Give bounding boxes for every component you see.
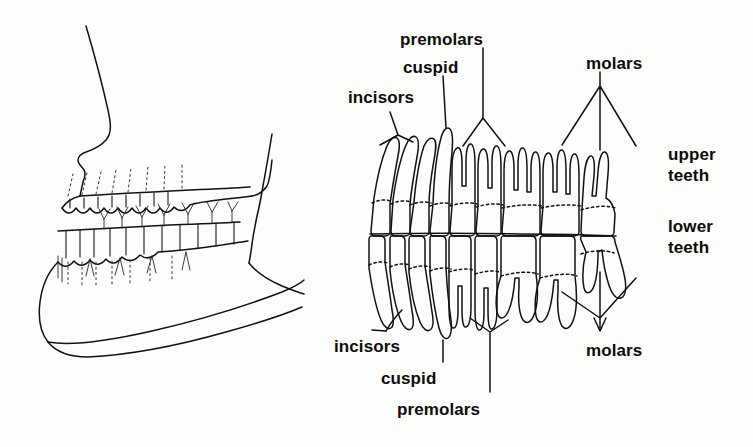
lower-molar-1 — [496, 236, 537, 322]
mandibular-ridge-top — [58, 222, 240, 231]
leader-cuspid-upper — [443, 76, 446, 128]
mandible-inferior-border — [48, 280, 304, 343]
lower-molar-3 — [581, 236, 626, 298]
label-cuspid-upper: cuspid — [403, 58, 458, 78]
mandible-posterior-join — [249, 263, 304, 294]
label-molars-lower: molars — [586, 341, 642, 361]
leader-premolars-lower — [470, 318, 508, 392]
label-incisors-lower: incisors — [334, 337, 400, 357]
lower-premolar-1 — [449, 236, 471, 328]
label-upper-teeth: upper teeth — [668, 144, 716, 186]
label-lower-teeth-line1: lower — [668, 216, 713, 237]
upper-molar-2 — [541, 150, 579, 236]
mandibular-gum-margin — [58, 241, 248, 266]
upper-incisor-2 — [391, 136, 418, 236]
upper-teeth-group — [371, 128, 616, 236]
lower-tooth-separations — [66, 222, 234, 258]
maxilla-outline — [78, 26, 110, 196]
maxillary-gum-margin — [62, 196, 252, 213]
leader-premolars-upper — [463, 48, 505, 146]
label-lower-teeth: lower teeth — [668, 216, 713, 258]
figure-canvas: premolars cuspid incisors molars upper t… — [0, 0, 753, 447]
upper-molar-1 — [502, 148, 540, 236]
lower-teeth-group — [369, 236, 626, 339]
label-incisors-upper: incisors — [348, 88, 414, 108]
label-upper-teeth-line2: teeth — [668, 165, 716, 186]
lateral-jaw-profile — [39, 26, 304, 357]
label-premolars-lower: premolars — [397, 400, 480, 420]
upper-molar-3 — [581, 152, 615, 236]
label-premolars-upper: premolars — [400, 30, 483, 50]
upper-cuspid — [430, 128, 453, 236]
ramus-anterior-border — [252, 160, 272, 196]
lower-root-spikes — [86, 252, 190, 276]
maxillary-ridge-top — [80, 187, 250, 196]
label-cuspid-lower: cuspid — [381, 369, 436, 389]
upper-incisor-3 — [410, 138, 436, 236]
lower-molar-2 — [535, 236, 576, 328]
upper-premolar-2 — [476, 146, 501, 236]
mandible-ramus — [249, 134, 272, 263]
leader-incisors-upper — [380, 112, 413, 145]
leader-molars-upper — [562, 72, 636, 150]
label-molars-upper: molars — [586, 54, 642, 74]
leader-incisors-lower — [372, 330, 386, 331]
label-lower-teeth-line2: teeth — [668, 237, 713, 258]
maxilla-left-edge — [62, 196, 80, 208]
lower-premolar-2 — [475, 236, 497, 330]
upper-premolar-1 — [450, 144, 475, 236]
lower-incisor-cluster — [58, 256, 62, 282]
label-upper-teeth-line1: upper — [668, 144, 716, 165]
